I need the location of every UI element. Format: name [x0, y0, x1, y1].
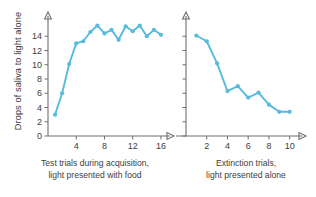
data-point — [116, 38, 120, 42]
acquisition-y-axis: 02468101214 — [32, 12, 51, 141]
y-tick-label: 0 — [37, 131, 42, 141]
data-point — [138, 23, 142, 27]
acquisition-series — [53, 23, 163, 116]
data-point — [267, 103, 271, 107]
x-tick-label: 4 — [74, 141, 79, 151]
x-tick-label: 16 — [156, 141, 166, 151]
x-tick-label: 2 — [204, 141, 209, 151]
y-tick-label: 14 — [32, 31, 42, 41]
x-tick-label: 12 — [128, 141, 138, 151]
data-point — [60, 91, 64, 95]
data-point — [236, 84, 240, 88]
acquisition-x-axis: 481216 — [48, 133, 174, 151]
data-point — [194, 33, 198, 37]
data-point — [67, 62, 71, 66]
extinction-chart: 246810 — [176, 4, 316, 154]
y-tick-label: 6 — [37, 88, 42, 98]
x-tick-labels: 246810 — [204, 141, 294, 151]
data-point — [215, 61, 219, 65]
acquisition-chart: 02468101214 481216 — [18, 4, 178, 154]
data-point — [95, 23, 99, 27]
y-tick-label: 12 — [32, 46, 42, 56]
extinction-series — [194, 33, 291, 113]
x-tick-label: 8 — [102, 141, 107, 151]
data-point — [145, 34, 149, 38]
x-tick-label: 6 — [246, 141, 251, 151]
acquisition-line — [55, 26, 161, 115]
data-point — [152, 28, 156, 32]
data-point — [131, 29, 135, 33]
data-point — [256, 90, 260, 94]
data-point — [246, 95, 250, 99]
data-point — [159, 33, 163, 37]
data-point — [225, 89, 229, 93]
extinction-caption: Extinction trials, light presented alone — [180, 158, 312, 181]
data-point — [109, 28, 113, 32]
y-tick-label: 8 — [37, 74, 42, 84]
data-point — [102, 31, 106, 35]
acquisition-caption: Test trials during acquisition, light pr… — [14, 158, 176, 181]
extinction-y-axis — [183, 12, 190, 136]
y-tick-label: 2 — [37, 117, 42, 127]
data-point — [288, 110, 292, 114]
x-tick-labels: 481216 — [74, 141, 166, 151]
y-tick-labels: 02468101214 — [32, 31, 42, 141]
data-point — [81, 39, 85, 43]
figure-container: Drops of saliva to light alone 024681012… — [0, 0, 316, 197]
y-tick-label: 10 — [32, 60, 42, 70]
data-point — [74, 41, 78, 45]
extinction-x-axis: 246810 — [176, 133, 306, 151]
data-point — [53, 113, 57, 117]
data-point — [277, 110, 281, 114]
x-tick-label: 4 — [225, 141, 230, 151]
acquisition-markers — [53, 23, 163, 116]
data-point — [205, 39, 209, 43]
data-point — [124, 24, 128, 28]
x-tick-label: 10 — [285, 141, 295, 151]
x-tick-label: 8 — [266, 141, 271, 151]
y-tick-label: 4 — [37, 103, 42, 113]
extinction-line — [196, 36, 289, 112]
data-point — [88, 30, 92, 34]
